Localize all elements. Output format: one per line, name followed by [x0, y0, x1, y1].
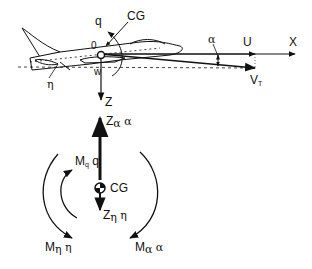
z-eta-var: η	[120, 209, 127, 222]
m-eta-var: η	[65, 241, 72, 254]
z-eta-sub: η	[110, 211, 117, 224]
vt-arrow	[100, 54, 255, 68]
cg-leader	[106, 22, 128, 46]
cg-label-bottom: CG	[110, 182, 128, 194]
m-q-main: M	[75, 154, 85, 168]
z-alpha-var: α	[124, 115, 131, 128]
w-label: w	[94, 67, 101, 77]
z-eta-label: Zη η	[103, 209, 127, 223]
flight-dynamics-diagram	[0, 0, 312, 269]
m-alpha-sub: α	[145, 243, 152, 256]
u-label: U	[243, 36, 252, 48]
m-q-sub: q	[85, 161, 89, 168]
x-axis-label: X	[289, 36, 297, 48]
z-alpha-label: Zα α	[106, 115, 132, 129]
vt-sub: T	[258, 80, 262, 87]
m-alpha-label: Mα α	[135, 241, 163, 255]
m-eta-arc	[43, 154, 72, 238]
z-axis-label: Z	[105, 96, 112, 108]
aircraft	[22, 28, 182, 70]
origin-label: 0	[91, 41, 97, 51]
m-q-var: q	[92, 154, 99, 168]
m-eta-label: Mη η	[45, 241, 72, 255]
m-eta-sub: η	[55, 243, 62, 256]
cg-symbol-bottom	[95, 183, 105, 193]
m-alpha-arc	[130, 152, 158, 238]
m-eta-main: M	[45, 240, 55, 254]
m-q-label: Mq q	[75, 155, 99, 168]
z-alpha-sub: α	[113, 117, 120, 130]
q-label: q	[95, 15, 102, 27]
m-alpha-var: α	[156, 241, 163, 254]
cg-label-top: CG	[127, 10, 145, 22]
m-alpha-main: M	[135, 240, 145, 254]
vt-label: VT	[250, 74, 262, 87]
alpha-label: α	[208, 34, 215, 45]
cg-symbol-top	[98, 52, 105, 59]
vt-main: V	[250, 73, 258, 87]
m-q-arc	[61, 170, 77, 218]
eta-label: η	[47, 79, 54, 90]
